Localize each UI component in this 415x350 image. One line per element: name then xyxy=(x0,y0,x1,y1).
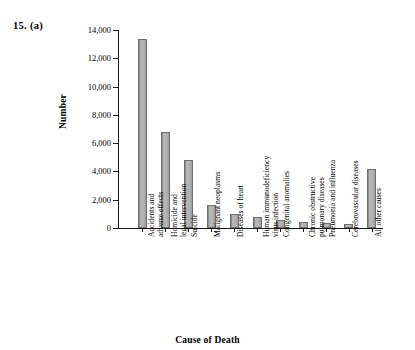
y-tick-mark xyxy=(113,115,118,116)
x-tick-mark xyxy=(349,228,350,232)
x-category-label: Chronic obstructivepulmonary diseases xyxy=(309,177,326,237)
x-tick-mark xyxy=(303,228,304,232)
x-category-label-line: Congenital anomalies xyxy=(283,171,292,237)
x-category-label: Accidents andadverse effects xyxy=(148,192,165,237)
x-category-label-line: virus infection xyxy=(271,156,280,237)
figure-container: 15. (a) 14,00012,00010,0008,0006,0004,00… xyxy=(0,0,415,350)
y-tick-mark xyxy=(113,200,118,201)
x-category-label: Homicide andlegal intervention xyxy=(171,184,188,237)
x-tick-mark xyxy=(142,228,143,232)
y-tick-mark xyxy=(113,143,118,144)
x-category-label: Pneumonia and influenza xyxy=(329,160,338,237)
x-category-label: All other causes xyxy=(375,188,384,237)
x-axis-title: Cause of Death xyxy=(0,335,415,345)
x-category-label-line: Cerebrovascular diseases xyxy=(352,160,361,237)
y-tick-mark xyxy=(113,228,118,229)
figure-number-label: 15. (a) xyxy=(13,20,43,31)
x-category-label: Diseases of heart xyxy=(237,185,246,237)
y-tick-label: 12,000 xyxy=(88,53,111,63)
x-category-label: Congenital anomalies xyxy=(283,171,292,237)
y-tick-label: 10,000 xyxy=(88,82,111,92)
x-tick-mark xyxy=(165,228,166,232)
y-tick-mark xyxy=(113,30,118,31)
y-tick-mark xyxy=(113,171,118,172)
y-tick-label: 4,000 xyxy=(92,166,111,176)
x-category-label-line: Pneumonia and influenza xyxy=(329,160,338,237)
x-category-label-line: legal intervention xyxy=(180,184,189,237)
y-tick-label: 8,000 xyxy=(92,110,111,120)
x-tick-mark xyxy=(280,228,281,232)
y-tick-label: 14,000 xyxy=(88,25,111,35)
bar xyxy=(253,217,262,228)
x-category-label-line: Malignant neoplasms xyxy=(214,172,223,237)
y-tick-label: 2,000 xyxy=(92,195,111,205)
x-tick-mark xyxy=(257,228,258,232)
x-category-label-line: All other causes xyxy=(375,188,384,237)
x-category-label-line: adverse effects xyxy=(157,192,166,237)
x-category-label-line: Human immunodeficiency xyxy=(263,156,272,237)
x-category-label-line: pulmonary diseases xyxy=(317,177,326,237)
y-axis-title: Number xyxy=(58,94,68,129)
bar xyxy=(138,39,147,229)
x-category-label: Malignant neoplasms xyxy=(214,172,223,237)
x-tick-mark xyxy=(372,228,373,232)
y-tick-label: 0 xyxy=(107,223,111,233)
x-category-label-line: Chronic obstructive xyxy=(309,177,318,237)
y-axis-line xyxy=(118,30,119,228)
y-tick-mark xyxy=(113,58,118,59)
x-category-label-line: Suicide xyxy=(191,214,200,237)
x-category-label: Cerebrovascular diseases xyxy=(352,160,361,237)
x-category-label-line: Diseases of heart xyxy=(237,185,246,237)
y-tick-label: 6,000 xyxy=(92,138,111,148)
x-category-label: Suicide xyxy=(191,214,200,237)
y-tick-mark xyxy=(113,87,118,88)
x-category-label: Human immunodeficiencyvirus infection xyxy=(263,156,280,237)
